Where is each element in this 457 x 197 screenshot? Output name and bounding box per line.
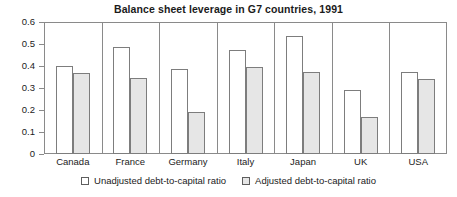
category-separator <box>274 22 275 154</box>
legend-swatch-icon <box>242 177 250 185</box>
bar-usa-unadjusted <box>401 72 418 155</box>
bar-france-adjusted <box>130 78 147 154</box>
bar-france-unadjusted <box>113 47 130 154</box>
legend-entry-unadjusted[interactable]: Unadjusted debt-to-capital ratio <box>81 175 226 186</box>
bar-uk-adjusted <box>361 117 378 154</box>
category-separator <box>332 22 333 154</box>
legend-label: Adjusted debt-to-capital ratio <box>255 175 376 186</box>
category-label-japan: Japan <box>290 156 316 167</box>
legend-entry-adjusted[interactable]: Adjusted debt-to-capital ratio <box>242 175 376 186</box>
bar-italy-unadjusted <box>229 50 246 155</box>
chart-figure: Balance sheet leverage in G7 countries, … <box>0 0 457 197</box>
legend-label: Unadjusted debt-to-capital ratio <box>94 175 226 186</box>
bar-japan-adjusted <box>303 72 320 155</box>
category-label-usa: USA <box>408 156 428 167</box>
legend-swatch-icon <box>81 177 89 185</box>
category-label-uk: UK <box>354 156 367 167</box>
bar-germany-unadjusted <box>171 69 188 154</box>
bar-usa-adjusted <box>418 79 435 154</box>
category-separator <box>389 22 390 154</box>
y-axis: 00.10.20.30.40.50.6 <box>0 0 44 197</box>
chart-title: Balance sheet leverage in G7 countries, … <box>0 3 457 15</box>
bar-uk-unadjusted <box>344 90 361 154</box>
bar-canada-adjusted <box>73 73 90 154</box>
category-label-canada: Canada <box>56 156 89 167</box>
y-tick-label: 0.2 <box>22 105 35 115</box>
category-separator <box>102 22 103 154</box>
y-tick-label: 0.1 <box>22 127 35 137</box>
y-tick-label: 0 <box>30 149 35 159</box>
category-label-italy: Italy <box>237 156 254 167</box>
y-tick-mark <box>39 154 44 155</box>
y-tick-label: 0.3 <box>22 83 35 93</box>
category-separator <box>159 22 160 154</box>
y-tick-label: 0.6 <box>22 17 35 27</box>
category-label-france: France <box>116 156 146 167</box>
bar-germany-adjusted <box>188 112 205 154</box>
bar-canada-unadjusted <box>56 66 73 154</box>
bars-layer <box>44 22 447 154</box>
y-tick-label: 0.4 <box>22 61 35 71</box>
chart-legend: Unadjusted debt-to-capital ratioAdjusted… <box>0 175 457 186</box>
bar-japan-unadjusted <box>286 36 303 154</box>
category-label-germany: Germany <box>168 156 207 167</box>
y-tick-label: 0.5 <box>22 39 35 49</box>
bar-italy-adjusted <box>246 67 263 154</box>
x-axis-category-labels: CanadaFranceGermanyItalyJapanUKUSA <box>44 156 447 170</box>
category-separator <box>217 22 218 154</box>
